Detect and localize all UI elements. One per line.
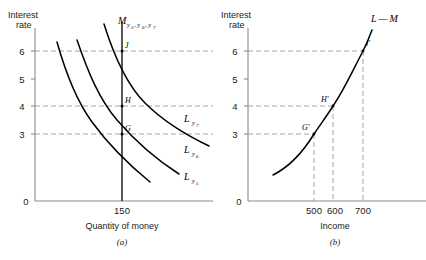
curve-l6-sub-n: 6 xyxy=(196,154,199,159)
curve-label-l-y5: L y 5 xyxy=(183,171,199,186)
point-h-prime-marker xyxy=(332,105,335,108)
panel-a-point-label-g: G xyxy=(125,124,131,133)
point-j-prime-marker xyxy=(362,50,365,53)
curve-l7-sub-n: 7 xyxy=(196,123,199,128)
panel-a-ytick-label-3: 3 xyxy=(19,129,24,140)
curve-l-y7 xyxy=(104,24,209,146)
panel-b-xtick-label-600: 600 xyxy=(327,205,343,216)
panel-a-money-market: Interest rate 6 5 4 3 0 150 Quantity of … xyxy=(0,0,213,260)
point-g-marker xyxy=(121,133,124,136)
panel-b-origin-label: 0 xyxy=(236,196,241,207)
curve-label-l-y6: L y 6 xyxy=(183,144,199,159)
curve-label-lm: L — M xyxy=(370,13,398,24)
panel-a-origin-label: 0 xyxy=(23,196,28,207)
curve-l-y5 xyxy=(57,42,150,182)
panel-a-point-label-h: H xyxy=(124,96,132,105)
panel-a-xtick-label-150: 150 xyxy=(114,205,130,216)
panel-a-x-axis-title: Quantity of money xyxy=(85,221,159,231)
curve-l5-base: L xyxy=(183,171,190,182)
panel-a-point-label-j: J xyxy=(125,41,129,50)
figure-money-market-and-lm-curve: Interest rate 6 5 4 3 0 150 Quantity of … xyxy=(0,0,426,260)
curve-l6-sub-y: y xyxy=(191,150,195,157)
money-supply-label: M y 5 , y 6 , y 7 xyxy=(117,15,156,30)
panel-b-xtick-label-700: 700 xyxy=(355,205,371,216)
panel-a-y-axis-title-line2: rate xyxy=(16,20,32,30)
point-j-marker xyxy=(121,50,124,53)
panel-b-point-label-g-prime: G′ xyxy=(302,123,310,132)
point-h-marker xyxy=(121,105,124,108)
ms-label-sep1: , y xyxy=(134,21,140,28)
panel-b-xtick-label-500: 500 xyxy=(306,205,322,216)
panel-b-x-axis-title: Income xyxy=(320,221,350,231)
panel-b-ytick-label-3: 3 xyxy=(232,129,237,140)
panel-b-ytick-label-6: 6 xyxy=(232,46,237,57)
panel-b-ytick-label-5: 5 xyxy=(232,74,237,85)
ms-label-sub-y1: y xyxy=(126,21,130,28)
panel-b-lm-curve: Interest rate 6 5 4 3 0 500 600 700 Inco… xyxy=(213,0,426,260)
panel-a-caption: (a) xyxy=(117,237,128,247)
panel-b-point-label-h-prime: H′ xyxy=(320,95,329,104)
curve-l5-sub-n: 5 xyxy=(196,181,199,186)
ms-label-sep2: , y xyxy=(145,21,151,28)
ms-label-base: M xyxy=(117,15,127,26)
point-g-prime-marker xyxy=(313,133,316,136)
panel-b-y-axis-title-line2: rate xyxy=(229,20,245,30)
panel-a-plot: Interest rate 6 5 4 3 0 150 Quantity of … xyxy=(0,0,213,260)
panel-b-y-axis-title-line1: Interest xyxy=(221,10,252,20)
panel-b-point-label-j-prime: J′ xyxy=(365,39,371,48)
curve-l5-sub-y: y xyxy=(191,177,195,184)
curve-l7-sub-y: y xyxy=(191,119,195,126)
panel-b-caption: (b) xyxy=(330,237,341,247)
panel-a-ytick-label-5: 5 xyxy=(19,74,24,85)
curve-l6-base: L xyxy=(183,144,190,155)
curve-l7-base: L xyxy=(183,113,190,124)
ms-label-sub-7: 7 xyxy=(153,25,156,30)
panel-a-ytick-label-6: 6 xyxy=(19,46,24,57)
curve-label-l-y7: L y 7 xyxy=(183,113,199,128)
panel-a-y-axis-title-line1: Interest xyxy=(8,10,39,20)
panel-b-ytick-label-4: 4 xyxy=(232,101,237,112)
panel-a-ytick-label-4: 4 xyxy=(19,101,24,112)
curve-l-y6 xyxy=(77,40,179,174)
panel-b-plot: Interest rate 6 5 4 3 0 500 600 700 Inco… xyxy=(213,0,426,260)
